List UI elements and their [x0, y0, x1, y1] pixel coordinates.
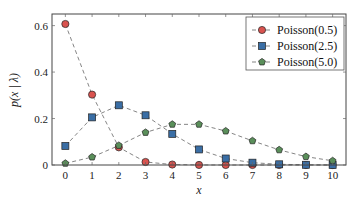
data-point-square: [89, 114, 96, 121]
x-tick-label: 2: [116, 169, 122, 181]
legend-label: Poisson(2.5): [277, 39, 337, 53]
data-point-pentagon: [276, 146, 283, 153]
data-point-pentagon: [222, 127, 229, 134]
x-tick-label: 0: [63, 169, 69, 181]
data-point-circle: [88, 91, 95, 98]
legend: Poisson(0.5)Poisson(2.5)Poisson(5.0): [246, 17, 344, 70]
data-point-square: [142, 112, 149, 119]
data-point-square: [115, 102, 122, 109]
x-tick-label: 8: [276, 169, 282, 181]
data-point-square: [196, 146, 203, 153]
x-tick-label: 5: [196, 169, 202, 181]
y-tick-label: 0.2: [34, 113, 48, 125]
data-point-pentagon: [89, 154, 96, 161]
poisson-pmf-chart: 012345678910 00.20.40.6 x p(x | λ) Poiss…: [0, 0, 358, 203]
legend-marker-circle: [258, 26, 265, 33]
legend-label: Poisson(0.5): [277, 23, 337, 37]
series-line: [65, 124, 332, 163]
y-axis-label: p(x | λ): [7, 73, 21, 108]
data-point-pentagon: [196, 121, 203, 128]
x-tick-label: 7: [250, 169, 256, 181]
data-point-pentagon: [169, 121, 176, 128]
x-tick-label: 9: [303, 169, 309, 181]
data-point-circle: [62, 20, 69, 27]
legend-marker-square: [259, 43, 266, 50]
y-tick-label: 0: [43, 159, 49, 171]
y-tick-label: 0.6: [34, 20, 48, 32]
data-point-square: [169, 130, 176, 137]
data-point-square: [222, 155, 229, 162]
x-tick-label: 1: [89, 169, 95, 181]
data-point-square: [62, 142, 69, 149]
y-tick-label: 0.4: [34, 66, 48, 78]
data-point-pentagon: [302, 153, 309, 160]
series-line: [65, 105, 332, 165]
x-tick-label: 6: [223, 169, 229, 181]
data-point-pentagon: [142, 129, 149, 136]
x-tick-label: 4: [170, 169, 176, 181]
x-axis-label: x: [195, 183, 202, 197]
legend-label: Poisson(5.0): [277, 55, 337, 69]
x-tick-label: 3: [143, 169, 149, 181]
x-tick-label: 10: [327, 169, 339, 181]
data-point-pentagon: [249, 137, 256, 144]
